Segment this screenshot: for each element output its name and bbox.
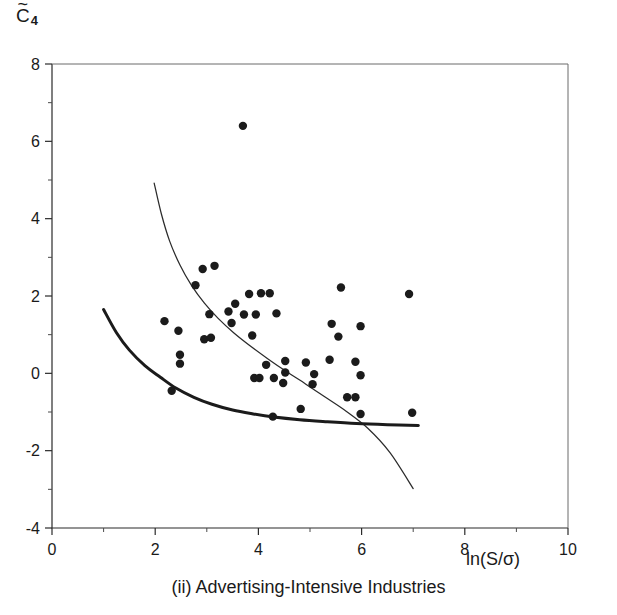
x-tick-label: 4 (254, 541, 263, 558)
figure-caption: (ii) Advertising-Intensive Industries (0, 577, 617, 598)
y-tick-label: 0 (31, 365, 40, 382)
data-point (325, 356, 333, 364)
x-tick-label: 6 (357, 541, 366, 558)
data-point (176, 359, 184, 367)
scatter-plot: 86420-2-40246810 (0, 0, 617, 615)
data-point (272, 309, 280, 317)
data-point (351, 358, 359, 366)
data-point (310, 370, 318, 378)
x-tick-label: 0 (48, 541, 57, 558)
fitted-curves (104, 183, 419, 488)
data-point (168, 387, 176, 395)
data-point (327, 320, 335, 328)
data-point (356, 371, 364, 379)
data-point (270, 374, 278, 382)
y-tick-label: 2 (31, 288, 40, 305)
data-point (281, 357, 289, 365)
data-point (281, 368, 289, 376)
data-point (255, 374, 263, 382)
data-point (176, 351, 184, 359)
data-point (191, 281, 199, 289)
data-point (279, 379, 287, 387)
axis-tick-labels: 86420-2-40246810 (26, 56, 577, 559)
data-point (205, 310, 213, 318)
data-point (356, 322, 364, 330)
data-point (405, 290, 413, 298)
x-tick-label: 2 (151, 541, 160, 558)
plot-border (52, 64, 568, 528)
data-point (351, 393, 359, 401)
thin-curve (154, 183, 413, 488)
data-point (308, 380, 316, 388)
data-point (227, 319, 235, 327)
data-point (252, 310, 260, 318)
x-axis-title: ln(S/σ) (466, 549, 520, 570)
data-point (240, 310, 248, 318)
data-point (343, 393, 351, 401)
data-point (248, 331, 256, 339)
x-tick-label: 10 (559, 541, 577, 558)
data-point (302, 358, 310, 366)
axis-lines (52, 64, 568, 528)
data-point (297, 405, 305, 413)
y-tick-label: 8 (31, 56, 40, 73)
data-point (257, 289, 265, 297)
data-point (269, 412, 277, 420)
y-tick-label: -4 (26, 520, 40, 537)
data-point (224, 307, 232, 315)
data-point (174, 327, 182, 335)
data-point (231, 300, 239, 308)
data-point (266, 289, 274, 297)
data-point (239, 122, 247, 130)
thick-curve (104, 310, 419, 426)
data-point (210, 262, 218, 270)
plot-frame (52, 64, 568, 528)
data-point (245, 290, 253, 298)
data-point (262, 361, 270, 369)
data-point (356, 410, 364, 418)
data-point (207, 334, 215, 342)
y-tick-label: 6 (31, 133, 40, 150)
axis-ticks (45, 64, 568, 535)
data-point (160, 317, 168, 325)
data-point (408, 409, 416, 417)
data-point (198, 265, 206, 273)
y-tick-label: 4 (31, 210, 40, 227)
data-point (334, 332, 342, 340)
figure-container: ~C4 86420-2-40246810 ln(S/σ) (ii) Advert… (0, 0, 617, 615)
y-tick-label: -2 (26, 442, 40, 459)
data-points (160, 122, 416, 421)
data-point (337, 283, 345, 291)
